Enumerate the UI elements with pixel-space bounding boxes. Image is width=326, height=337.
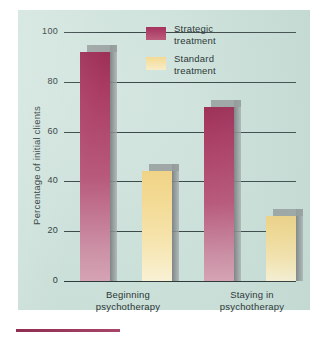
legend-label: Strategictreatment (174, 23, 216, 47)
legend-swatch-standard (146, 57, 166, 70)
bar-strategic-1 (204, 107, 234, 281)
y-axis-title: Percentage of initial clients (31, 86, 42, 246)
y-tick-label: 40 (24, 176, 58, 185)
legend-item-strategic: Strategictreatment (146, 24, 266, 54)
y-tick-label: 60 (24, 127, 58, 136)
y-tick-label: 20 (24, 226, 58, 235)
category-label-line: psychotherapy (202, 301, 302, 313)
bar-top-face (273, 209, 303, 216)
bar-standard-0 (142, 171, 172, 281)
legend-label: Standardtreatment (174, 53, 216, 77)
category-label-line: Beginning (78, 289, 178, 301)
bar-front-face (80, 52, 110, 281)
y-tick-label: 80 (24, 77, 58, 86)
bar-front-face (266, 216, 296, 281)
chart-panel: Percentage of initial clients 0204060801… (18, 10, 310, 310)
bar-standard-1 (266, 216, 296, 281)
chart-legend: StrategictreatmentStandardtreatment (146, 24, 266, 84)
category-label-line: Staying in (202, 289, 302, 301)
legend-label-line2: treatment (174, 35, 216, 47)
bar-front-face (204, 107, 234, 281)
bar-front-face (142, 171, 172, 281)
bar-side-face (234, 100, 241, 281)
legend-item-standard: Standardtreatment (146, 54, 266, 84)
y-tick-label: 0 (24, 276, 58, 285)
bar-strategic-0 (80, 52, 110, 281)
chart-page: Percentage of initial clients 0204060801… (0, 0, 326, 337)
bar-side-face (110, 45, 117, 281)
category-label-1: Staying inpsychotherapy (202, 289, 302, 313)
legend-swatch-strategic (146, 27, 166, 40)
legend-label-line2: treatment (174, 65, 216, 77)
plot-area: Percentage of initial clients 0204060801… (18, 10, 310, 310)
legend-label-line1: Standard (174, 53, 216, 65)
bar-top-face (149, 164, 179, 171)
category-label-line: psychotherapy (78, 301, 178, 313)
legend-label-line1: Strategic (174, 23, 216, 35)
bar-side-face (296, 209, 303, 281)
bar-top-face (211, 100, 241, 107)
category-label-0: Beginningpsychotherapy (78, 289, 178, 313)
bar-side-face (172, 164, 179, 281)
gridline-0 (64, 281, 296, 282)
y-tick-label: 100 (24, 27, 58, 36)
bar-top-face (87, 45, 117, 52)
bottom-rule (16, 329, 120, 332)
